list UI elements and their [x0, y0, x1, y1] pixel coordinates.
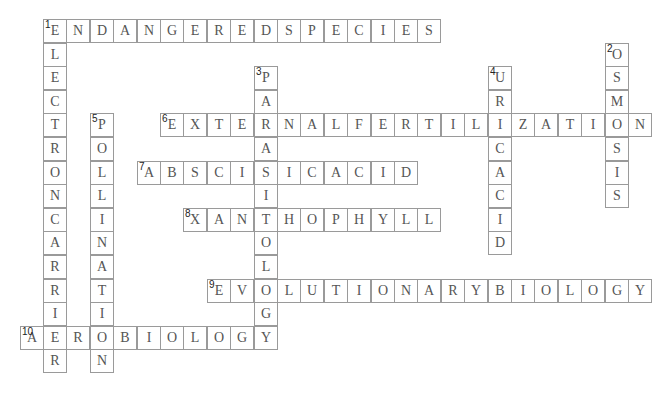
- crossword-cell[interactable]: N: [277, 113, 301, 137]
- crossword-cell[interactable]: P: [300, 19, 324, 43]
- crossword-cell[interactable]: I: [43, 302, 67, 326]
- crossword-cell[interactable]: O: [605, 113, 629, 137]
- crossword-cell[interactable]: G: [160, 19, 184, 43]
- crossword-cell[interactable]: L: [90, 184, 114, 208]
- crossword-cell[interactable]: C: [43, 90, 67, 114]
- crossword-cell[interactable]: L: [558, 279, 582, 303]
- crossword-cell[interactable]: S: [605, 137, 629, 161]
- crossword-cell[interactable]: L: [43, 43, 67, 67]
- crossword-cell[interactable]: I: [137, 326, 161, 350]
- crossword-cell[interactable]: A: [300, 113, 324, 137]
- crossword-cell[interactable]: H: [347, 208, 371, 232]
- crossword-cell[interactable]: G: [254, 302, 278, 326]
- crossword-cell[interactable]: I: [347, 279, 371, 303]
- crossword-cell[interactable]: T: [43, 113, 67, 137]
- crossword-cell[interactable]: A: [254, 90, 278, 114]
- crossword-cell[interactable]: X: [183, 113, 207, 137]
- crossword-cell[interactable]: S: [605, 184, 629, 208]
- crossword-cell[interactable]: Z: [511, 113, 535, 137]
- crossword-cell[interactable]: L: [394, 208, 418, 232]
- crossword-cell[interactable]: O: [207, 326, 231, 350]
- crossword-cell[interactable]: E: [394, 19, 418, 43]
- crossword-cell[interactable]: E1: [43, 19, 67, 43]
- crossword-cell[interactable]: A: [488, 161, 512, 185]
- crossword-cell[interactable]: L: [254, 255, 278, 279]
- crossword-cell[interactable]: E: [324, 19, 348, 43]
- crossword-cell[interactable]: C: [300, 161, 324, 185]
- crossword-cell[interactable]: A: [534, 113, 558, 137]
- crossword-cell[interactable]: I: [511, 279, 535, 303]
- crossword-cell[interactable]: O: [254, 231, 278, 255]
- crossword-cell[interactable]: I: [90, 302, 114, 326]
- crossword-cell[interactable]: A: [324, 161, 348, 185]
- crossword-cell[interactable]: B: [113, 326, 137, 350]
- crossword-cell[interactable]: O: [371, 279, 395, 303]
- crossword-cell[interactable]: T: [90, 279, 114, 303]
- crossword-cell[interactable]: O: [534, 279, 558, 303]
- crossword-cell[interactable]: I: [488, 208, 512, 232]
- crossword-cell[interactable]: R: [488, 90, 512, 114]
- crossword-cell[interactable]: C: [488, 184, 512, 208]
- crossword-cell[interactable]: D: [254, 19, 278, 43]
- crossword-cell[interactable]: O: [90, 137, 114, 161]
- crossword-cell[interactable]: N: [66, 19, 90, 43]
- crossword-cell[interactable]: R: [254, 113, 278, 137]
- crossword-cell[interactable]: P: [324, 208, 348, 232]
- crossword-cell[interactable]: L: [324, 113, 348, 137]
- crossword-cell[interactable]: T: [417, 113, 441, 137]
- crossword-cell[interactable]: S: [277, 19, 301, 43]
- crossword-cell[interactable]: I: [371, 19, 395, 43]
- crossword-cell[interactable]: A7: [137, 161, 161, 185]
- crossword-cell[interactable]: C: [347, 161, 371, 185]
- crossword-cell[interactable]: A: [90, 255, 114, 279]
- crossword-cell[interactable]: L: [183, 326, 207, 350]
- crossword-cell[interactable]: C: [207, 161, 231, 185]
- crossword-cell[interactable]: A10: [20, 326, 44, 350]
- crossword-cell[interactable]: N: [90, 231, 114, 255]
- crossword-cell[interactable]: X8: [183, 208, 207, 232]
- crossword-cell[interactable]: O: [581, 279, 605, 303]
- crossword-cell[interactable]: I: [90, 208, 114, 232]
- crossword-cell[interactable]: Y: [254, 326, 278, 350]
- crossword-cell[interactable]: N: [137, 19, 161, 43]
- crossword-cell[interactable]: S: [417, 19, 441, 43]
- crossword-cell[interactable]: O: [43, 161, 67, 185]
- crossword-cell[interactable]: T: [558, 113, 582, 137]
- crossword-cell[interactable]: C: [347, 19, 371, 43]
- crossword-cell[interactable]: P3: [254, 66, 278, 90]
- crossword-cell[interactable]: L: [464, 113, 488, 137]
- crossword-cell[interactable]: S: [254, 161, 278, 185]
- crossword-cell[interactable]: R: [441, 279, 465, 303]
- crossword-cell[interactable]: N: [43, 184, 67, 208]
- crossword-cell[interactable]: I: [254, 184, 278, 208]
- crossword-cell[interactable]: N: [628, 113, 652, 137]
- crossword-cell[interactable]: I: [441, 113, 465, 137]
- crossword-cell[interactable]: R: [66, 326, 90, 350]
- crossword-cell[interactable]: O: [254, 279, 278, 303]
- crossword-cell[interactable]: C: [43, 208, 67, 232]
- crossword-cell[interactable]: F: [347, 113, 371, 137]
- crossword-cell[interactable]: I: [581, 113, 605, 137]
- crossword-cell[interactable]: O: [90, 326, 114, 350]
- crossword-cell[interactable]: C: [488, 137, 512, 161]
- crossword-cell[interactable]: B: [488, 279, 512, 303]
- crossword-cell[interactable]: R: [43, 349, 67, 373]
- crossword-cell[interactable]: H: [277, 208, 301, 232]
- crossword-cell[interactable]: S: [183, 161, 207, 185]
- crossword-cell[interactable]: T: [324, 279, 348, 303]
- crossword-cell[interactable]: E9: [207, 279, 231, 303]
- crossword-cell[interactable]: D: [90, 19, 114, 43]
- crossword-cell[interactable]: R: [43, 137, 67, 161]
- crossword-cell[interactable]: E: [43, 326, 67, 350]
- crossword-cell[interactable]: G: [605, 279, 629, 303]
- crossword-cell[interactable]: P5: [90, 113, 114, 137]
- crossword-cell[interactable]: R: [394, 113, 418, 137]
- crossword-cell[interactable]: O2: [605, 43, 629, 67]
- crossword-cell[interactable]: I: [277, 161, 301, 185]
- crossword-cell[interactable]: Y: [628, 279, 652, 303]
- crossword-cell[interactable]: G: [230, 326, 254, 350]
- crossword-cell[interactable]: O: [160, 326, 184, 350]
- crossword-cell[interactable]: M: [605, 90, 629, 114]
- crossword-cell[interactable]: N: [394, 279, 418, 303]
- crossword-cell[interactable]: T: [254, 208, 278, 232]
